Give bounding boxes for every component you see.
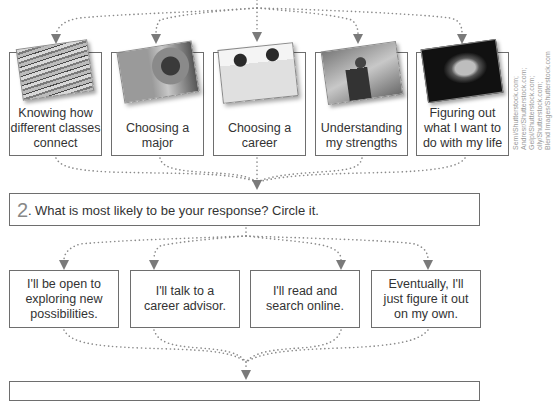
response-option-advisor[interactable]: I'll talk to a career advisor. (130, 270, 240, 328)
credit-line: Andresr/Shutterstock.com; (520, 50, 528, 150)
option-caption: Choosing a career (214, 121, 305, 151)
credit-line: Blend Images/Shutterstock.com (544, 50, 552, 150)
response-label: I'll talk to a career advisor. (137, 284, 233, 314)
superhero-businessman-photo (321, 41, 404, 105)
option-caption: Choosing a major (112, 121, 203, 151)
question-number-suffix: . (28, 203, 32, 218)
question-number: 2 (17, 198, 28, 222)
response-option-figure-out[interactable]: Eventually, I'll just figure it out on m… (371, 270, 481, 328)
stack-of-books-photo (16, 39, 95, 101)
question-text: What is most likely to be your response?… (35, 203, 319, 218)
credit-line: Semi/Shutterstock.com; (512, 50, 520, 150)
professionals-photo (217, 42, 298, 104)
response-option-search-online[interactable]: I'll read and search online. (250, 270, 360, 328)
question-box: 2 . What is most likely to be your respo… (9, 193, 480, 226)
option-caption: Understanding my strengths (316, 121, 407, 151)
option-caption: Knowing how different classes connect (10, 106, 101, 151)
credit-line: olly/Shutterstock.com; (536, 50, 544, 150)
response-label: I'll be open to exploring new possibilit… (16, 277, 112, 322)
response-option-open[interactable]: I'll be open to exploring new possibilit… (9, 270, 119, 328)
photo-credits: Semi/Shutterstock.com; Andresr/Shutterst… (512, 50, 552, 150)
response-label: I'll read and search online. (257, 284, 353, 314)
option-caption: Figuring out what I want to do with my l… (417, 106, 508, 151)
credit-line: Gelpi/Shutterstock.com; (528, 50, 536, 150)
response-label: Eventually, I'll just figure it out on m… (378, 277, 474, 322)
next-step-box (9, 381, 480, 401)
thinking-man-photo (421, 39, 504, 103)
